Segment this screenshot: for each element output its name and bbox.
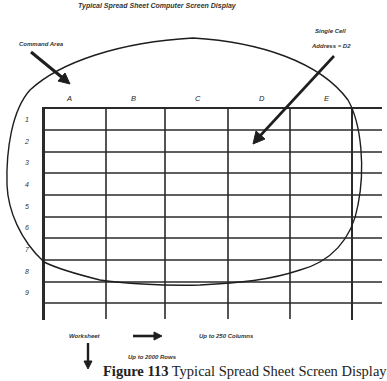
row-header-5: 5 [25,203,29,210]
figure-caption: Figure 113 Typical Spread Sheet Screen D… [103,363,387,380]
column-header-b: B [131,94,136,103]
row-header-1: 1 [25,116,29,123]
columns-note: Up to 250 Columns [199,333,253,339]
worksheet-label: Worksheet [69,333,100,339]
single-cell-arrow [253,56,334,144]
figure-number: Figure 113 [103,363,168,379]
grid-horizontal-lines [42,108,382,303]
cell-address-label: Address = D2 [312,43,351,49]
column-header-a: A [67,94,72,103]
row-header-8: 8 [25,268,29,275]
column-header-e: E [324,94,329,103]
rows-note: Up to 2000 Rows [128,354,176,360]
row-header-7: 7 [25,246,29,253]
row-header-3: 3 [25,159,29,166]
rows-arrow [84,343,92,369]
figure-caption-text: Typical Spread Sheet Screen Display [168,363,386,379]
columns-arrow [133,332,162,340]
column-header-c: C [195,94,200,103]
column-header-d: D [259,94,264,103]
single-cell-label: Single Cell [315,28,346,34]
grid-vertical-lines [44,107,353,320]
row-header-4: 4 [25,181,29,188]
command-area-label: Command Area [19,41,63,47]
row-header-2: 2 [25,138,29,145]
row-header-6: 6 [25,224,29,231]
diagram-title: Typical Spread Sheet Computer Screen Dis… [78,2,236,9]
row-header-9: 9 [25,289,29,296]
